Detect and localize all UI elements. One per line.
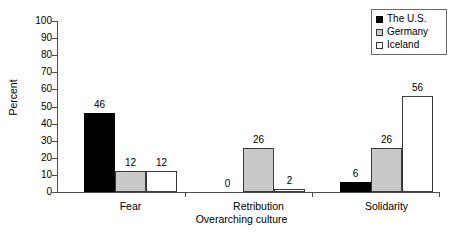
legend: The U.S.GermanyIceland	[371, 9, 447, 55]
bar-chart: Percent 0102030405060708090100 461212026…	[0, 0, 455, 238]
y-axis-tick-label: 80	[26, 50, 52, 60]
y-axis-tick-label: 0	[26, 187, 52, 197]
bar	[402, 96, 433, 192]
y-axis-tick-label: 30	[26, 136, 52, 146]
legend-item[interactable]: The U.S.	[376, 13, 442, 25]
y-axis-tick-label: 100	[26, 16, 52, 26]
bar	[340, 182, 371, 192]
x-axis-category-label: Fear	[71, 200, 191, 212]
bar	[84, 113, 115, 192]
y-axis-tick-label: 40	[26, 119, 52, 129]
y-axis-tick-label: 70	[26, 67, 52, 77]
legend-item[interactable]: Iceland	[376, 39, 442, 51]
bar	[146, 171, 177, 192]
legend-item-label: Germany	[387, 27, 428, 37]
legend-swatch-icon	[376, 16, 383, 23]
bar-value-label: 56	[402, 83, 433, 93]
x-axis-tick	[312, 192, 313, 197]
y-axis-tick-label: 90	[26, 33, 52, 43]
bar	[115, 171, 146, 192]
x-axis-title-text: Overarching culture	[196, 213, 288, 225]
bar-value-label: 12	[146, 158, 177, 168]
y-axis-tick-label: 60	[26, 84, 52, 94]
x-axis-title: Overarching culture	[0, 213, 455, 225]
legend-swatch-icon	[376, 42, 383, 49]
bar-value-label: 26	[243, 135, 274, 145]
x-axis-line	[57, 192, 440, 193]
bar-value-label: 0	[212, 179, 243, 189]
bar	[274, 189, 305, 192]
x-axis-category-label: Solidarity	[327, 200, 447, 212]
legend-swatch-icon	[376, 29, 383, 36]
x-axis-tick	[439, 192, 440, 197]
bar-value-label: 26	[371, 135, 402, 145]
x-axis-tick	[185, 192, 186, 197]
bar-value-label: 12	[115, 158, 146, 168]
y-axis-tick-label: 50	[26, 102, 52, 112]
legend-item-label: The U.S.	[387, 14, 426, 24]
bar	[371, 148, 402, 192]
bar	[243, 148, 274, 192]
legend-item[interactable]: Germany	[376, 26, 442, 38]
y-axis-tick-label: 20	[26, 153, 52, 163]
bar-value-label: 6	[340, 169, 371, 179]
legend-item-label: Iceland	[387, 40, 419, 50]
bar-value-label: 2	[274, 176, 305, 186]
x-axis-category-label: Retribution	[199, 200, 319, 212]
y-axis-tick-label: 10	[26, 170, 52, 180]
bar-value-label: 46	[84, 100, 115, 110]
